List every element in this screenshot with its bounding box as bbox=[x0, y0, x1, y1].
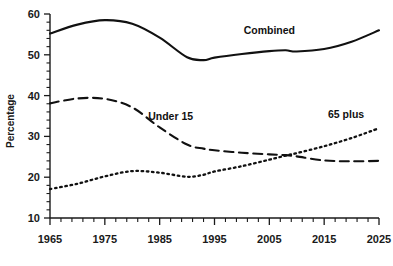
line-chart: 102030405060 Percentage 1965197519851995… bbox=[0, 0, 393, 266]
series-label-65-plus: 65 plus bbox=[328, 108, 364, 120]
x-tick-label: 2025 bbox=[367, 233, 391, 245]
x-tick-label: 1985 bbox=[147, 233, 171, 245]
series-line-65-plus bbox=[50, 128, 379, 189]
x-tick-label: 1965 bbox=[38, 233, 62, 245]
y-axis-group: 102030405060 Percentage bbox=[5, 8, 50, 224]
y-tick-label: 40 bbox=[28, 90, 40, 102]
data-series-group bbox=[50, 20, 379, 189]
x-axis-tick-labels: 1965197519851995200520152025 bbox=[38, 233, 391, 245]
y-tick-label: 60 bbox=[28, 8, 40, 20]
series-label-combined: Combined bbox=[244, 24, 295, 36]
x-axis-ticks bbox=[50, 218, 379, 225]
x-tick-label: 2015 bbox=[312, 233, 336, 245]
x-axis-group: 1965197519851995200520152025 bbox=[38, 218, 391, 245]
chart-page: 102030405060 Percentage 1965197519851995… bbox=[0, 0, 393, 266]
x-tick-label: 1995 bbox=[202, 233, 226, 245]
series-label-under-15: Under 15 bbox=[148, 110, 193, 122]
y-axis-ticks bbox=[44, 14, 50, 218]
y-axis-tick-labels: 102030405060 bbox=[28, 8, 40, 224]
y-tick-label: 30 bbox=[28, 130, 40, 142]
y-tick-label: 10 bbox=[28, 212, 40, 224]
y-tick-label: 50 bbox=[28, 49, 40, 61]
y-tick-label: 20 bbox=[28, 171, 40, 183]
series-line-combined bbox=[50, 20, 379, 60]
x-tick-label: 2005 bbox=[257, 233, 281, 245]
y-axis-title: Percentage bbox=[5, 94, 16, 148]
x-tick-label: 1975 bbox=[93, 233, 117, 245]
series-annotations-group: CombinedUnder 1565 plus bbox=[148, 24, 364, 122]
